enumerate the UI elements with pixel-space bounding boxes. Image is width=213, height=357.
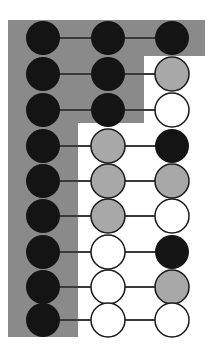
lattice-node-black — [26, 164, 60, 198]
lattice-node-gray — [91, 164, 125, 198]
lattice-node-black — [26, 270, 60, 304]
lattice-node-black — [26, 235, 60, 269]
lattice-node-black — [26, 303, 60, 337]
lattice-node-white — [91, 235, 125, 269]
lattice-diagram — [0, 0, 213, 357]
diagram-canvas — [0, 0, 213, 357]
lattice-node-black — [155, 129, 189, 163]
lattice-node-black — [26, 129, 60, 163]
lattice-node-black — [26, 93, 60, 127]
node-layer — [26, 21, 189, 337]
lattice-node-gray — [91, 199, 125, 233]
lattice-node-gray — [155, 270, 189, 304]
lattice-node-gray — [91, 129, 125, 163]
lattice-node-white — [155, 303, 189, 337]
lattice-node-black — [91, 21, 125, 55]
lattice-node-white — [91, 303, 125, 337]
lattice-node-black — [155, 21, 189, 55]
lattice-node-black — [26, 21, 60, 55]
lattice-node-black — [91, 93, 125, 127]
lattice-node-black — [26, 199, 60, 233]
lattice-node-black — [91, 57, 125, 91]
lattice-node-white — [91, 270, 125, 304]
lattice-node-gray — [155, 57, 189, 91]
lattice-node-gray — [155, 164, 189, 198]
lattice-node-white — [155, 93, 189, 127]
lattice-node-black — [155, 235, 189, 269]
lattice-node-white — [155, 199, 189, 233]
lattice-node-black — [26, 57, 60, 91]
